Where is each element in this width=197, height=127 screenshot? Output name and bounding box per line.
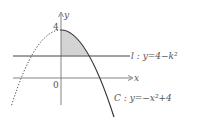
x-axis-label: x [134,73,139,83]
y-axis-label: y [63,10,70,20]
curve-c-dashed [11,30,61,107]
line-l-label: l : y=4−k² [131,51,178,61]
origin-label: 0 [53,80,59,90]
y-intercept-label: 4 [53,22,59,32]
curve-c-label: C : y=−x²+4 [114,93,172,103]
diagram-canvas: y x 4 0 l : y=4−k² C : y=−x²+4 [0,0,197,127]
shaded-region [61,30,88,56]
